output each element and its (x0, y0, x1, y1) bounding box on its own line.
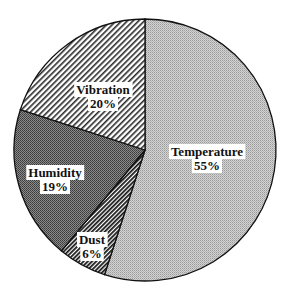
slice-label-percent: 20% (90, 96, 116, 111)
slice-label-name: Humidity (28, 165, 82, 180)
slice-label-name: Temperature (171, 144, 243, 159)
slice-label-dust: Dust6% (77, 232, 108, 261)
slice-label-percent: 6% (82, 246, 102, 261)
pie-chart: Temperature55%Dust6%Humidity19%Vibration… (0, 0, 289, 298)
slice-label-name: Dust (79, 232, 106, 247)
slice-label-percent: 19% (42, 179, 68, 194)
slice-label-percent: 55% (194, 158, 220, 173)
slice-label-name: Vibration (76, 82, 130, 97)
